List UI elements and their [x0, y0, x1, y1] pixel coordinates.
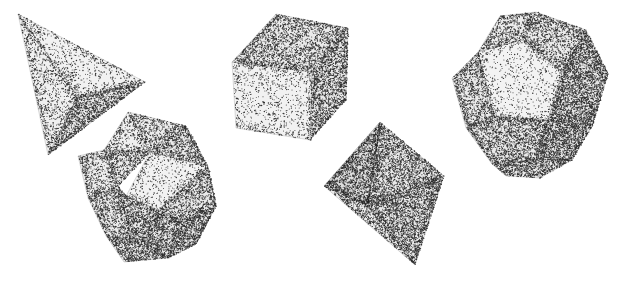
polyhedra-illustration: [0, 0, 624, 282]
cube-face-front: [232, 62, 313, 141]
illustration-canvas: [0, 0, 624, 282]
